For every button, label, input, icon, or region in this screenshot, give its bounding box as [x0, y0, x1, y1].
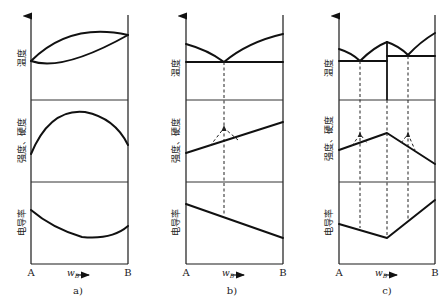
panel-b: 温度 强度、硬度 电导率 A B wB b) [170, 15, 287, 296]
label-A: A [334, 267, 343, 278]
panel-c: 温度 强度、硬度 电导率 A B wB c) [323, 15, 439, 296]
conductivity-curve [31, 210, 128, 238]
liquidus-right [224, 34, 283, 62]
x-axis-label: wB [222, 268, 235, 279]
row-label-strength: 强度、硬度 [323, 116, 334, 161]
conductivity-line [186, 204, 283, 238]
label-B: B [279, 267, 286, 278]
label-B: B [124, 267, 131, 278]
liquidus-compound-left [360, 42, 387, 61]
property-composition-figure: 温度 强度、硬度 电导率 A B wB a) 温度 强度、硬度 电导率 A B … [0, 0, 444, 303]
strength-line [339, 133, 435, 164]
label-B: B [431, 267, 438, 278]
liquidus-compound-right [387, 42, 408, 55]
caption-b: b) [227, 285, 237, 296]
label-A: A [26, 267, 35, 278]
liquidus-right [408, 33, 435, 55]
peak-arrow-icon [358, 131, 362, 137]
liquidus-left [339, 49, 360, 61]
caption-a: a) [73, 285, 83, 296]
row-label-temperature: 温度 [16, 49, 27, 67]
panel-a: 温度 强度、硬度 电导率 A B wB a) [16, 15, 132, 296]
liquidus-left [186, 44, 224, 62]
peak-arrow-icon [406, 131, 410, 137]
row-label-conductivity: 电导率 [170, 209, 181, 236]
x-axis-label: wB [67, 268, 80, 279]
peak-arrow-icon [222, 125, 227, 131]
row-label-temperature: 温度 [170, 59, 181, 77]
row-label-strength: 强度、硬度 [16, 118, 27, 163]
strength-curve [31, 112, 128, 154]
x-axis-label: wB [375, 268, 388, 279]
caption-c: c) [382, 285, 392, 296]
label-A: A [181, 267, 190, 278]
row-label-strength: 强度、硬度 [170, 118, 181, 163]
strength-line [186, 122, 283, 153]
row-label-conductivity: 电导率 [16, 209, 27, 236]
row-label-temperature: 温度 [323, 59, 334, 77]
row-label-conductivity: 电导率 [323, 209, 334, 236]
